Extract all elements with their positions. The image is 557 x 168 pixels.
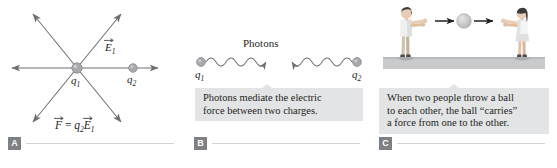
vector-arrow-icon <box>83 115 93 120</box>
panel-a: E1 q1 q2 F = q2E1 A <box>0 0 186 168</box>
caption-line-2: to each other, the ball “carries” <box>387 105 542 118</box>
boy-shoe-back <box>400 55 405 57</box>
charge-q1-highlight <box>198 59 201 62</box>
charge-q1-dot <box>72 63 82 73</box>
girl-shoe-back <box>517 55 521 57</box>
vector-arrow-icon <box>54 115 64 120</box>
ball <box>457 14 471 28</box>
charge-q1-label: q1 <box>71 74 80 89</box>
girl-leg-front <box>522 40 525 57</box>
charge-q1-highlight <box>74 65 78 69</box>
panel-a-rule <box>26 143 174 144</box>
charge-q2-highlight <box>354 59 357 62</box>
photon-wave-rightward <box>206 58 266 66</box>
girl-leg-back <box>518 40 521 57</box>
panel-b-footer: B <box>194 137 366 150</box>
person-boy <box>399 7 428 60</box>
field-vector-label: E1 <box>105 41 115 56</box>
force-equation-label: F = q2E1 <box>55 119 95 134</box>
panel-b-rule <box>212 143 360 144</box>
boy-leg-front <box>406 36 410 57</box>
panel-c-artwork <box>371 0 557 88</box>
charge-q2-dot <box>353 58 362 67</box>
boy-shadow <box>399 57 414 61</box>
panel-c: When two people throw a ball to each oth… <box>371 0 557 168</box>
girl-skirt <box>515 33 529 42</box>
panel-c-badge: C <box>379 137 392 150</box>
panel-a-badge: A <box>8 137 21 150</box>
panel-c-footer: C <box>379 137 551 150</box>
charge-q2-highlight <box>130 65 133 68</box>
caption-line-3: a force from one to the other. <box>387 117 542 130</box>
boy-leg-back <box>401 36 405 57</box>
boy-shoe-front <box>406 55 411 57</box>
girl-neck <box>521 18 524 20</box>
charge-q2-dot <box>129 64 138 73</box>
girl-shadow <box>515 57 530 61</box>
vector-arrow-icon <box>104 37 114 42</box>
panel-b-artwork <box>186 0 372 88</box>
physics-figure: E1 q1 q2 F = q2E1 A Photons <box>0 0 557 168</box>
charge-q2-label: q2 <box>352 68 361 83</box>
charge-q1-label: q1 <box>195 68 204 83</box>
photon-wave-leftward <box>292 58 352 66</box>
panel-a-footer: A <box>8 137 180 150</box>
boy-hand-lower <box>421 22 425 26</box>
person-girl <box>501 8 530 61</box>
girl-shoe-front <box>523 55 527 57</box>
caption-line-2: force between two charges. <box>203 105 356 118</box>
panel-b-badge: B <box>194 137 207 150</box>
caption-line-1: When two people throw a ball <box>387 92 542 105</box>
panel-b: Photons q1 q2 Photons <box>186 0 372 168</box>
charge-q1-dot <box>197 58 206 67</box>
charge-q2-label: q2 <box>127 73 136 88</box>
boy-neck <box>405 18 408 20</box>
girl-hand-lower <box>503 22 507 26</box>
panel-c-caption: When two people throw a ball to each oth… <box>379 88 549 134</box>
panel-c-rule <box>397 143 545 144</box>
caption-line-1: Photons mediate the electric <box>203 92 356 105</box>
panel-b-caption: Photons mediate the electric force betwe… <box>195 88 363 121</box>
